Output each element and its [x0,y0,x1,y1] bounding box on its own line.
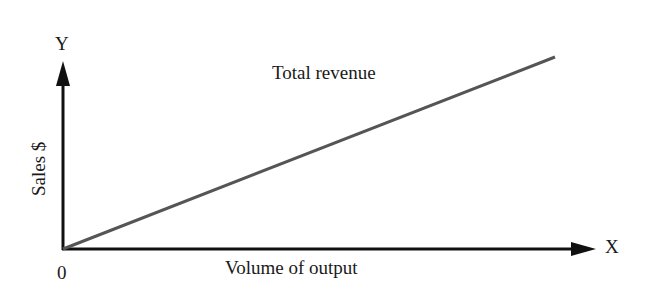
chart-canvas [0,0,650,299]
y-axis-letter: Y [55,33,69,55]
x-axis-letter: X [605,236,619,258]
origin-label: 0 [57,262,67,284]
x-axis-label: Volume of output [225,257,358,279]
series-label-total-revenue: Total revenue [272,62,376,84]
y-axis-arrow-icon [56,61,70,86]
x-axis-arrow-icon [571,242,596,256]
total-revenue-line [63,57,555,249]
y-axis-label: Sales $ [28,142,50,196]
